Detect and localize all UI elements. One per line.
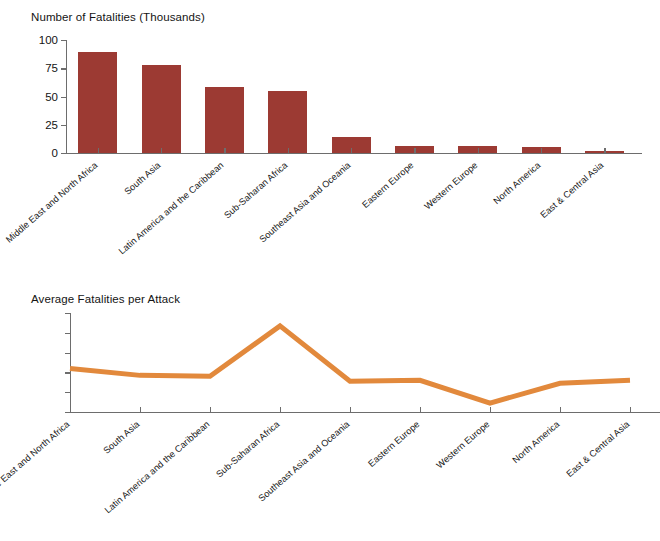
- line-chart-x-tick: [140, 407, 141, 412]
- line-chart-x-tick: [560, 407, 561, 412]
- line-chart-x-tick: [70, 407, 71, 412]
- line-chart-x-tick: [490, 407, 491, 412]
- line-chart-x-tick: [210, 407, 211, 412]
- line-chart-x-tick: [630, 407, 631, 412]
- line-chart-x-tick: [420, 407, 421, 412]
- line-path: [70, 326, 630, 403]
- line-chart-x-tick: [280, 407, 281, 412]
- line-chart-x-tick: [350, 407, 351, 412]
